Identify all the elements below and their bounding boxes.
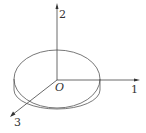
axis-3 — [12, 80, 57, 115]
axis-3-label: 3 — [14, 116, 21, 129]
axis-2-label: 2 — [59, 8, 66, 21]
origin-label: O — [55, 81, 64, 94]
axis-1-label: 1 — [131, 83, 138, 96]
axis-1-arrow-icon — [134, 79, 140, 82]
diagram-canvas: 2 1 3 O — [0, 0, 146, 133]
